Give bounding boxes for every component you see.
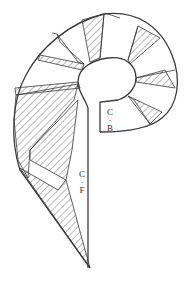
pattern-diagram: C · B C · F [0,0,184,283]
center-back-label: C · B [105,108,115,132]
center-front-label: C · F [77,170,87,194]
spiral-pattern-svg [0,0,184,283]
inner-outline [78,58,136,268]
hatched-wedges [14,14,175,268]
